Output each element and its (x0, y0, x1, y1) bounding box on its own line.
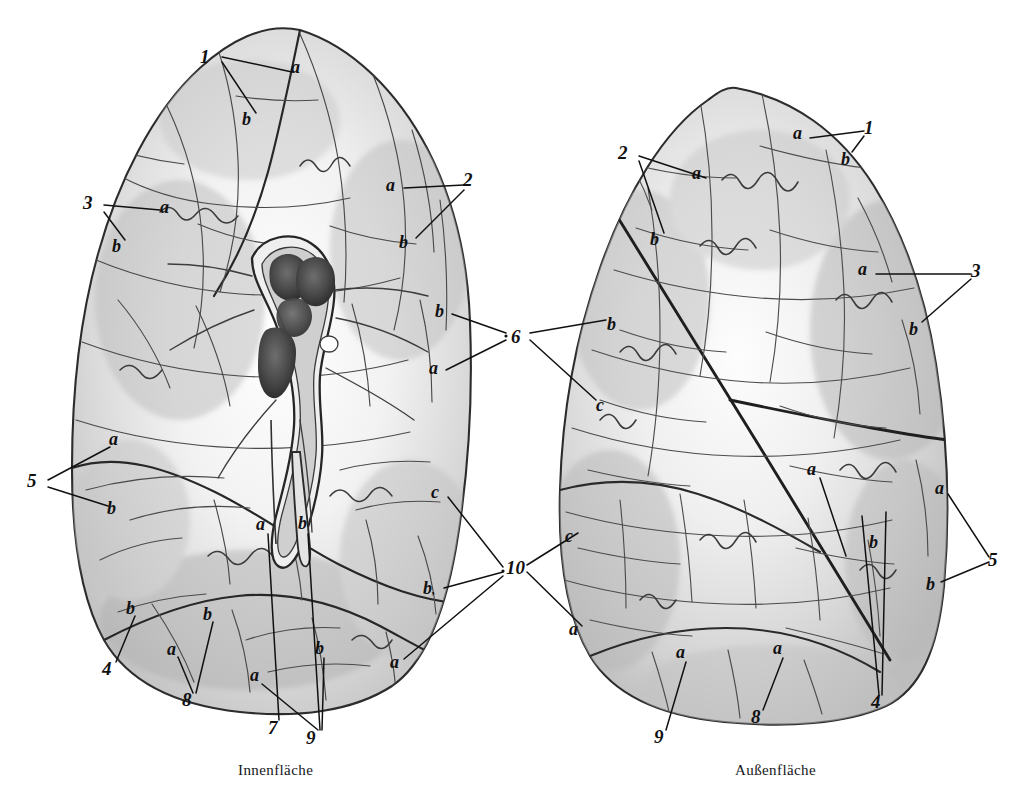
aussenflaeche-label-2-3: 2 (618, 143, 628, 162)
aussenflaeche-label-a-16: a (935, 479, 944, 497)
aussenflaeche-label-5-17: 5 (988, 550, 998, 569)
aussenflaeche-label-b-2: b (841, 150, 850, 168)
innenflaeche-label-a-1: a (291, 58, 300, 76)
aussenflaeche-label-10-14: 10 (506, 558, 525, 577)
aussenflaeche-label-4-24: 4 (871, 692, 881, 711)
aussenflaeche-label-c-12: c (565, 527, 573, 545)
innenflaeche-label-5-12: 5 (27, 471, 37, 490)
innenflaeche-label-2-6: 2 (463, 170, 473, 189)
innenflaeche-label-a-4: a (160, 198, 169, 216)
aussenflaeche-label-a-13: a (569, 620, 578, 638)
innenflaeche-label-a-10: a (429, 359, 438, 377)
aussenflaeche-label-a-22: a (773, 639, 782, 657)
innenflaeche-label-7-25: 7 (268, 718, 278, 737)
aussenflaeche-label-b-8: b (909, 320, 918, 338)
innenflaeche-label-b-15: b (423, 579, 435, 597)
aussenflaeche-label-1-0: 1 (864, 118, 874, 137)
aussenflaeche-label-8-23: 8 (751, 707, 761, 726)
aussenflaeche-label-a-20: a (676, 643, 685, 661)
innenflaeche-label-b-9: b (435, 302, 444, 320)
aussenflaeche-label-a-4: a (692, 164, 701, 182)
innenflaeche-label-b-8: b (399, 233, 408, 251)
innenflaeche-label-b-18: b (298, 514, 307, 532)
innenflaeche-label-b-13: b (107, 499, 116, 517)
innenflaeche-label-a-11: a (109, 430, 118, 448)
aussenflaeche-label-b-18: b (926, 575, 935, 593)
innenflaeche-label-c-14: c (431, 483, 439, 501)
innenflaeche-label-a-24: a (250, 666, 259, 684)
innenflaeche-label-8-23: 8 (182, 690, 192, 709)
aussenflaeche-label-c-11: c (596, 396, 604, 414)
innenflaeche-label-9-27: 9 (306, 728, 316, 747)
aussenflaeche-label-3-6: 3 (971, 261, 981, 280)
innenflaeche-label-a-21: a (167, 640, 176, 658)
innenflaeche-label-3-3: 3 (83, 193, 93, 212)
innenflaeche-label-a-16: a (390, 653, 399, 671)
lung-anatomy-figure (0, 0, 1030, 798)
innenflaeche-label-b-26: b (315, 639, 324, 657)
innenflaeche-label-b-2: b (242, 110, 251, 128)
aussenflaeche-label-a-7: a (858, 260, 867, 278)
aussenflaeche-label-b-19: b (869, 533, 878, 551)
innenflaeche-label-4-19: 4 (102, 659, 112, 678)
innenflaeche-label-a-17: a (256, 515, 265, 533)
innenflaeche-label-b-22: b (203, 605, 212, 623)
aussenflaeche-label-a-15: a (807, 460, 816, 478)
innenflaeche-label-a-7: a (386, 176, 395, 194)
aussenflaeche-label-b-10: b (607, 315, 616, 333)
aussenflaeche-label-b-5: b (650, 230, 659, 248)
aussenflaeche-label-9-21: 9 (654, 727, 664, 746)
innenflaeche-label-1-0: 1 (200, 47, 210, 66)
caption-aussenflaeche: Außenfläche (735, 762, 816, 779)
aussenflaeche-label-a-1: a (793, 124, 802, 142)
innenflaeche-label-b-5: b (112, 237, 121, 255)
innenflaeche-label-b-20: b (126, 599, 135, 617)
aussenflaeche-label-6-9: 6 (511, 327, 521, 346)
caption-innenflaeche: Innenfläche (238, 762, 313, 779)
